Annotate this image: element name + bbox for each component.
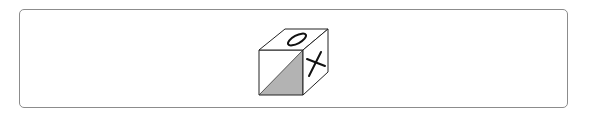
cube-diagram (0, 0, 593, 117)
